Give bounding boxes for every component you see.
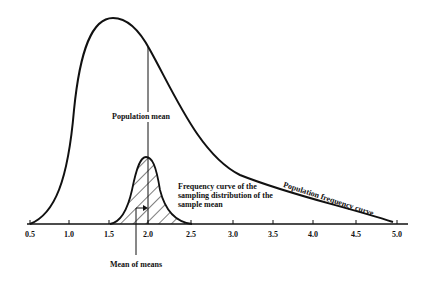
population-mean-label: Population mean [112,112,170,121]
chart: Population mean Frequency curve of the s… [0,0,429,282]
x-tick: 2.0 [143,230,153,239]
x-tick: 5.0 [392,230,402,239]
x-tick: 2.5 [186,230,196,239]
chart-plot [0,0,429,282]
mean-of-means-label: Mean of means [110,260,162,269]
x-tick: 4.5 [351,230,361,239]
sampling-curve-label-1: Frequency curve of the [178,182,257,191]
x-tick: 3.0 [228,230,238,239]
sampling-curve-label-3: sample mean [178,200,223,209]
x-tick: 0.5 [25,230,35,239]
x-tick: 3.5 [268,230,278,239]
x-tick: 4.0 [308,230,318,239]
x-tick: 1.5 [104,230,114,239]
x-tick: 1.0 [64,230,74,239]
sampling-curve-label-2: sampling distribution of the [178,191,273,200]
